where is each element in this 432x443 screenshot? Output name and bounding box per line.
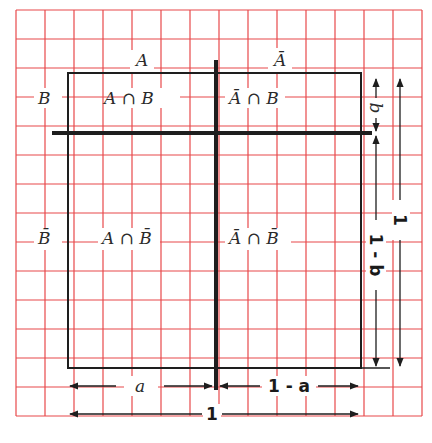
dimension-label-a: a	[135, 376, 145, 396]
column-header-not-a: Ā	[272, 50, 286, 70]
dimension-label-vertical-1: 1	[390, 214, 410, 226]
row-header-b: B	[37, 88, 51, 108]
row-header-not-b: B̄	[37, 227, 51, 248]
dimension-label-b: b	[366, 103, 386, 114]
dimension-label-1-minus-a: 1 - a	[268, 376, 310, 396]
dimension-label-1-minus-b: 1 - b	[366, 234, 386, 277]
cell-not-a-and-not-b: Ā ∩ B̄	[227, 227, 279, 248]
cell-a-and-b: A ∩ B	[102, 88, 154, 108]
dimension-label-horizontal-1: 1	[206, 404, 218, 424]
column-header-a: A	[134, 50, 148, 70]
cell-not-a-and-b: Ā ∩ B	[227, 88, 279, 108]
probability-diagram: A Ā B B̄ A ∩ B Ā ∩ B A ∩ B̄ Ā ∩ B̄ b 1 -…	[0, 0, 432, 443]
cell-a-and-not-b: A ∩ B̄	[100, 227, 152, 248]
label-backgrounds	[34, 48, 292, 250]
